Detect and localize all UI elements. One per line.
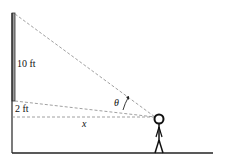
angle-arc bbox=[123, 98, 128, 110]
diagram-canvas: 10 ft 2 ft x θ bbox=[0, 0, 228, 165]
label-x: x bbox=[81, 118, 87, 129]
label-2ft: 2 ft bbox=[15, 103, 29, 114]
stick-figure bbox=[155, 115, 164, 154]
label-theta: θ bbox=[114, 97, 119, 108]
sight-line-top bbox=[15, 14, 155, 117]
label-10ft: 10 ft bbox=[17, 58, 36, 69]
sight-line-bottom bbox=[15, 101, 155, 117]
